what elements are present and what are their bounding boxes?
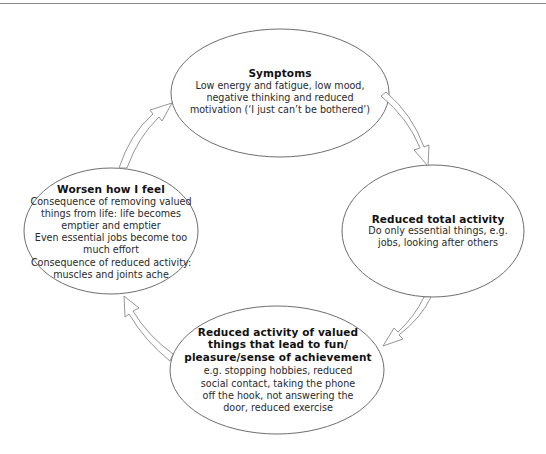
body-line: motivation (‘I just can’t be bothered’) xyxy=(190,104,370,116)
node-body: e.g. stopping hobbies, reduced social co… xyxy=(201,365,355,414)
node-body: Low energy and fatigue, low mood, negati… xyxy=(190,80,370,117)
node-body: Do only essential things, e.g. jobs, loo… xyxy=(368,225,507,249)
arrow-worsen-to-symptoms-icon xyxy=(119,103,172,168)
body-line: social contact, taking the phone xyxy=(201,378,355,390)
title-line: pleasure/sense of achievement xyxy=(184,351,371,364)
body-line: Consequence of reduced activity: xyxy=(31,257,192,269)
arrow-valued-activity-to-worsen-icon xyxy=(124,296,173,361)
title-line: Reduced total activity xyxy=(372,213,505,226)
body-line: things from life: life becomes xyxy=(31,208,192,220)
node-title: Symptoms xyxy=(248,67,311,80)
body-line: e.g. stopping hobbies, reduced xyxy=(201,365,355,377)
arrow-total-activity-to-valued-activity-icon xyxy=(383,297,431,346)
body-line: off the hook, not answering the xyxy=(201,390,355,402)
body-line: jobs, looking after others xyxy=(368,237,507,249)
body-line: negative thinking and reduced xyxy=(190,92,370,104)
body-line: much effort xyxy=(31,244,192,256)
body-line: door, reduced exercise xyxy=(201,402,355,414)
title-line: things that lead to fun/ xyxy=(184,338,371,351)
node-title: Reduced total activity xyxy=(372,213,505,226)
body-line: Consequence of removing valued xyxy=(31,196,192,208)
title-line: Symptoms xyxy=(248,67,311,80)
node-reduced-valued-activity: Reduced activity of valued things that l… xyxy=(176,323,380,417)
node-reduced-total-activity: Reduced total activity Do only essential… xyxy=(353,208,523,254)
body-line: Low energy and fatigue, low mood, xyxy=(190,80,370,92)
arrow-symptoms-to-total-activity-icon xyxy=(381,92,429,166)
node-title: Worsen how I feel xyxy=(57,183,165,196)
title-line: Worsen how I feel xyxy=(57,183,165,196)
title-line: Reduced activity of valued xyxy=(184,326,371,339)
node-worsen-how-i-feel: Worsen how I feel Consequence of removin… xyxy=(28,178,194,286)
body-line: Do only essential things, e.g. xyxy=(368,225,507,237)
node-title: Reduced activity of valued things that l… xyxy=(184,326,371,364)
node-symptoms: Symptoms Low energy and fatigue, low moo… xyxy=(180,50,380,134)
body-line: Even essential jobs become too xyxy=(31,232,192,244)
node-body: Consequence of removing valued things fr… xyxy=(31,196,192,281)
body-line: emptier and emptier xyxy=(31,220,192,232)
body-line: muscles and joints ache xyxy=(31,269,192,281)
